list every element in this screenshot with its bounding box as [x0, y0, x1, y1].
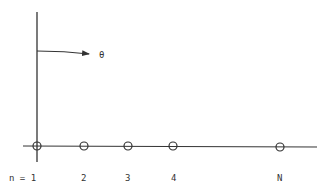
node-4	[169, 142, 177, 150]
horizontal-axis	[23, 146, 317, 147]
node-label-3: 3	[125, 173, 130, 183]
node-label-n: N	[277, 173, 282, 183]
node-label-1: n = 1	[9, 173, 36, 183]
node-label-4: 4	[171, 173, 176, 183]
diagram-canvas: θ n = 1 2 3 4 N	[0, 0, 328, 193]
angle-label: θ	[99, 50, 104, 60]
node-label-2: 2	[81, 173, 86, 183]
rotation-arrow-icon	[37, 51, 89, 54]
